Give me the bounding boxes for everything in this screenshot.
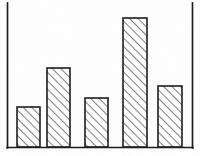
bar-chart-canvas	[0, 0, 200, 156]
bar-1	[17, 107, 40, 147]
bar-5	[158, 86, 182, 147]
bar-3	[85, 98, 108, 147]
bar-2	[47, 68, 70, 147]
bar-4	[123, 18, 147, 147]
bar-chart-figure	[0, 0, 200, 156]
